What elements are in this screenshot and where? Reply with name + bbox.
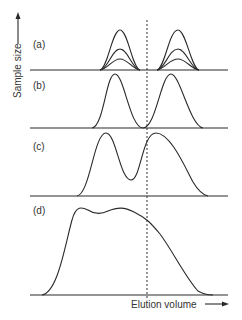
y-axis: Sample size (12, 12, 23, 98)
panel-label-a: (a) (33, 39, 45, 50)
arrow-up-icon (16, 12, 21, 19)
peak-d (42, 208, 213, 295)
peaks-c (77, 133, 208, 196)
x-axis-label: Elution volume (131, 299, 197, 310)
panel-label-c: (c) (33, 141, 45, 152)
peak-a1-large (100, 30, 140, 70)
panel-b: (b) (30, 74, 228, 128)
y-axis-label: Sample size (12, 43, 23, 98)
panel-a: (a) (30, 30, 228, 70)
panel-c: (c) (30, 133, 228, 196)
arrow-right-icon (222, 302, 229, 307)
panel-label-d: (d) (33, 205, 45, 216)
x-axis: Elution volume (131, 299, 229, 310)
panel-d: (d) (30, 205, 228, 295)
panel-label-b: (b) (33, 80, 45, 91)
chromatography-diagram: Sample size (a) (b) (c) (d) Elution volu… (0, 0, 242, 320)
